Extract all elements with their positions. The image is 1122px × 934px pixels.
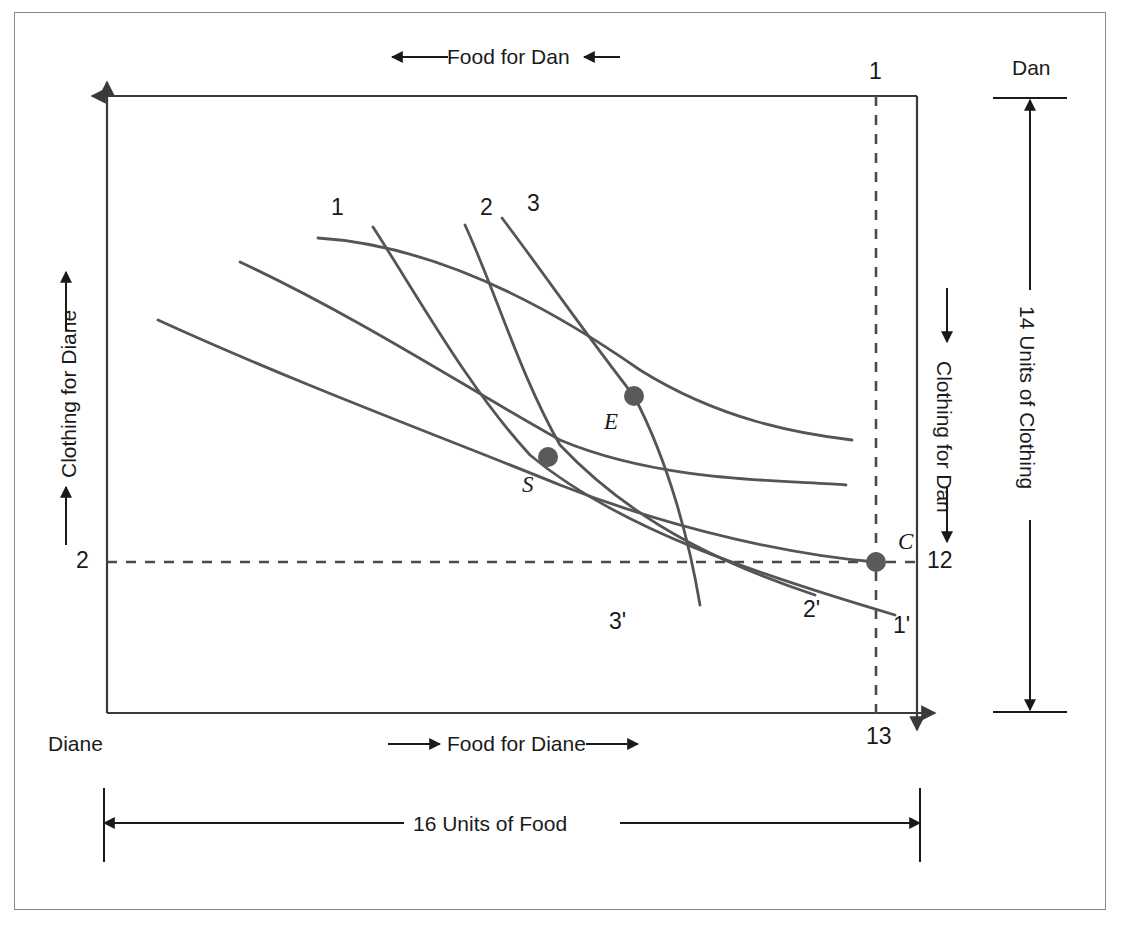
point-E-marker[interactable] [624,386,644,406]
dan-curve-1 [373,227,895,615]
origin-label-dan: Dan [1012,57,1051,78]
point-S-marker[interactable] [538,447,558,467]
curve-label-diane-2-prime: 2' [803,598,820,621]
point-label-E: E [604,410,618,433]
tick-label-bottom: 13 [866,725,892,748]
point-label-C: C [898,530,913,553]
point-C-marker[interactable] [866,552,886,572]
tick-label-right: 12 [927,549,953,572]
tick-label-top-right: 1 [869,60,882,83]
right-axis-label: Clothing for Dan [934,361,955,513]
origin-label-diane: Diane [48,733,103,754]
top-axis-title: Food for Dan [447,46,570,67]
point-label-S: S [522,473,534,496]
measure-bottom-label: 16 Units of Food [413,813,567,834]
allocation-points [538,386,886,572]
curve-label-dan-2: 2 [480,196,493,219]
figure-page: Food for Dan Food for Diane Diane Dan Cl… [0,0,1122,934]
dashed-guides [107,96,917,713]
left-axis-label: Clothing for Diane [58,310,79,478]
curve-label-diane-1-prime: 1' [893,614,910,637]
diane-indifference-curves [158,238,876,562]
dan-axes [92,96,917,730]
curve-label-dan-1: 1 [331,196,344,219]
measure-right-label: 14 Units of Clothing [1017,306,1038,489]
bottom-axis-title: Food for Diane [447,733,586,754]
tick-label-left: 2 [76,549,89,572]
dan-curve-3 [502,218,700,605]
curve-label-dan-3: 3 [527,192,540,215]
curve-label-diane-3-prime: 3' [609,610,626,633]
